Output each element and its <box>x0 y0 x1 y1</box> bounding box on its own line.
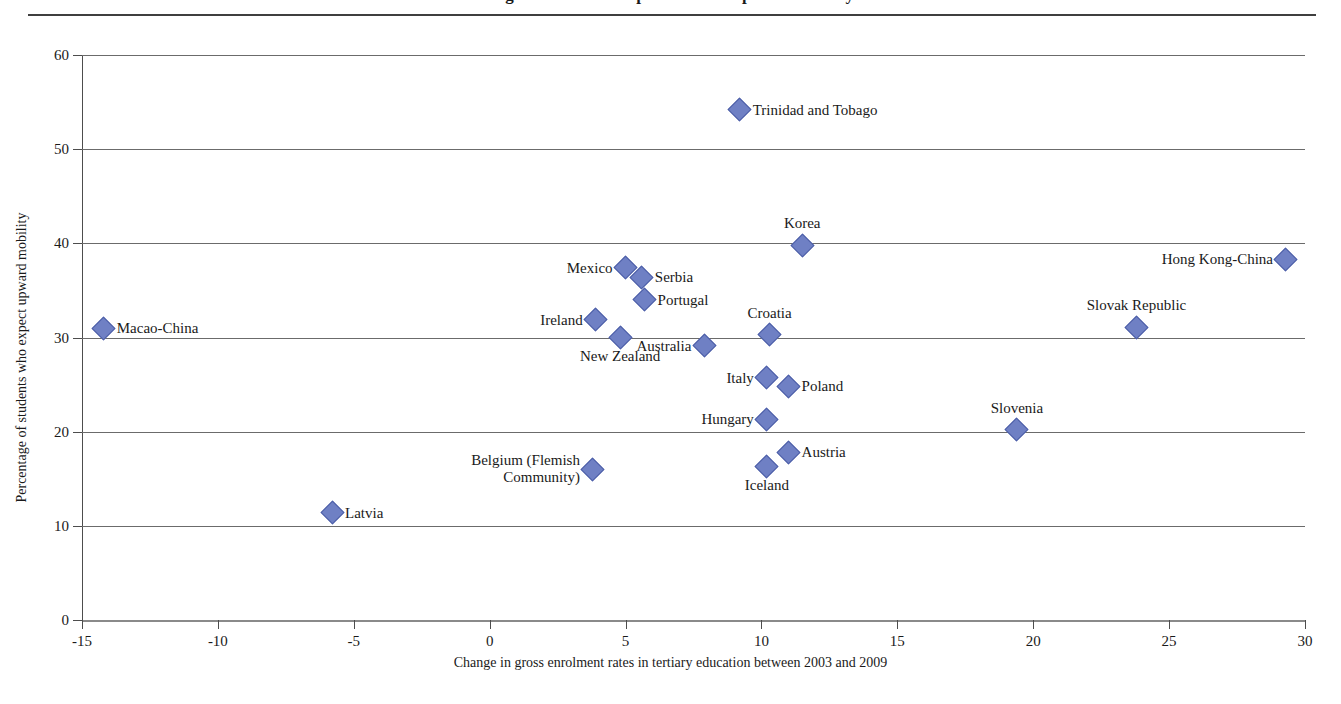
data-point-label: Australia <box>636 337 691 354</box>
y-axis-tick-label: 50 <box>54 141 69 158</box>
x-axis-tick <box>1033 620 1034 629</box>
data-point-label: Croatia <box>748 305 792 322</box>
y-axis-tick <box>73 243 82 244</box>
y-axis-tick-label: 10 <box>54 517 69 534</box>
x-axis-tick <box>761 620 762 629</box>
data-point-label: Portugal <box>658 291 709 308</box>
data-point-marker[interactable] <box>1005 418 1029 442</box>
y-axis-tick-label: 30 <box>54 329 69 346</box>
data-point-marker[interactable] <box>755 454 779 478</box>
data-point-label: Latvia <box>345 504 383 521</box>
x-axis-tick-label: 20 <box>1026 633 1041 650</box>
x-axis-tick-label: 5 <box>622 633 630 650</box>
data-point-label: Serbia <box>655 269 693 286</box>
data-point-label: Belgium (Flemish Community) <box>471 452 580 486</box>
x-axis-tick-label: 0 <box>486 633 494 650</box>
y-axis-title: Percentage of students who expect upward… <box>14 75 34 640</box>
y-axis-tick <box>73 149 82 150</box>
y-axis-tick-label: 60 <box>54 47 69 64</box>
y-axis-tick <box>73 526 82 527</box>
x-axis-tick <box>1305 620 1306 629</box>
y-gridline <box>82 526 1305 527</box>
x-axis-tick-label: 25 <box>1162 633 1177 650</box>
y-gridline <box>82 55 1305 56</box>
data-point-label: Korea <box>784 215 821 232</box>
x-axis-tick-label: 30 <box>1298 633 1313 650</box>
data-point-label: Iceland <box>745 477 789 494</box>
data-point-label: Macao-China <box>117 320 199 337</box>
scatter-plot-area: 0102030405060-15-10-5051015202530Trinida… <box>82 55 1305 620</box>
y-gridline <box>82 149 1305 150</box>
x-axis-tick-label: 10 <box>754 633 769 650</box>
x-axis-title: Change in gross enrolment rates in terti… <box>0 655 1341 671</box>
data-point-marker[interactable] <box>1274 247 1298 271</box>
y-gridline <box>82 338 1305 339</box>
y-axis-tick <box>73 55 82 56</box>
data-point-label: Mexico <box>567 259 613 276</box>
x-axis-tick <box>1169 620 1170 629</box>
data-point-marker[interactable] <box>777 374 801 398</box>
y-gridline <box>82 620 1305 622</box>
y-gridline <box>82 432 1305 433</box>
data-point-label: Poland <box>802 378 844 395</box>
data-point-marker[interactable] <box>1124 315 1148 339</box>
data-point-marker[interactable] <box>584 308 608 332</box>
x-axis-tick-label: 15 <box>890 633 905 650</box>
y-axis-tick-label: 40 <box>54 235 69 252</box>
data-point-label: Italy <box>726 369 754 386</box>
figure-top-rule <box>28 14 1316 16</box>
x-axis-tick <box>897 620 898 629</box>
x-axis-tick <box>354 620 355 629</box>
data-point-marker[interactable] <box>755 407 779 431</box>
data-point-marker[interactable] <box>728 98 752 122</box>
x-axis-tick <box>82 620 83 629</box>
data-point-marker[interactable] <box>608 325 632 349</box>
x-axis-tick-label: -5 <box>348 633 361 650</box>
data-point-marker[interactable] <box>758 323 782 347</box>
y-axis-tick-label: 20 <box>54 423 69 440</box>
data-point-label: Hungary <box>701 411 754 428</box>
y-axis-tick <box>73 338 82 339</box>
y-axis-tick-label: 0 <box>62 612 70 629</box>
data-point-marker[interactable] <box>320 501 344 525</box>
x-axis-tick <box>490 620 491 629</box>
data-point-marker[interactable] <box>777 440 801 464</box>
data-point-label: Austria <box>802 444 846 461</box>
y-axis-tick <box>73 620 82 621</box>
figure-page: Figure: Students' expectations of upward… <box>0 0 1341 704</box>
y-axis-tick <box>73 432 82 433</box>
data-point-marker[interactable] <box>755 366 779 390</box>
x-axis-tick <box>626 620 627 629</box>
data-point-label: Slovak Republic <box>1087 297 1187 314</box>
data-point-marker[interactable] <box>581 457 605 481</box>
figure-title-cropped: Figure: Students' expectations of upward… <box>28 0 1316 12</box>
data-point-marker[interactable] <box>790 233 814 257</box>
x-axis-tick-label: -15 <box>72 633 92 650</box>
data-point-label: Trinidad and Tobago <box>753 101 878 118</box>
data-point-marker[interactable] <box>92 316 116 340</box>
data-point-label: Ireland <box>540 311 582 328</box>
x-axis-tick <box>218 620 219 629</box>
x-axis-tick-label: -10 <box>208 633 228 650</box>
y-gridline <box>82 243 1305 244</box>
data-point-label: Slovenia <box>991 400 1044 417</box>
data-point-marker[interactable] <box>633 288 657 312</box>
data-point-label: Hong Kong-China <box>1162 251 1273 268</box>
